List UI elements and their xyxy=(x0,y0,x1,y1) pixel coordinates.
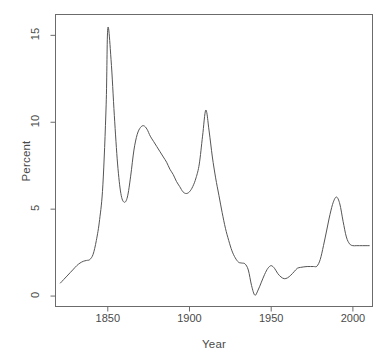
data-series-line xyxy=(60,27,369,295)
y-axis-ticks xyxy=(51,35,56,296)
x-tick-label-1900: 1900 xyxy=(169,312,209,324)
y-tick-label-5: 5 xyxy=(29,195,41,221)
y-tick-label-10: 10 xyxy=(29,108,41,134)
line-chart-plot xyxy=(0,0,388,359)
x-tick-label-1950: 1950 xyxy=(251,312,291,324)
plot-frame xyxy=(56,15,373,307)
y-tick-label-15: 15 xyxy=(29,21,41,47)
x-axis-title: Year xyxy=(174,338,254,350)
x-axis-ticks xyxy=(108,307,353,312)
y-tick-label-0: 0 xyxy=(29,282,41,308)
x-tick-label-1850: 1850 xyxy=(88,312,128,324)
x-tick-label-2000: 2000 xyxy=(333,312,373,324)
chart-container: Percent Year 1850190019502000 051015 xyxy=(0,0,388,359)
